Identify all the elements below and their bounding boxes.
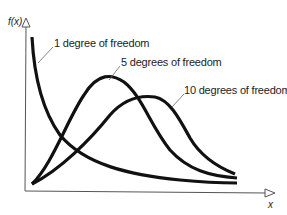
label-10-df: 10 degrees of freedom [184, 84, 287, 96]
y-axis [25, 26, 26, 191]
x-axis-arrow-icon [265, 189, 275, 197]
x-axis [25, 191, 266, 193]
chi-square-chart [0, 0, 287, 215]
y-axis-label: f(x) [8, 16, 22, 27]
label-1-df: 1 degree of freedom [54, 37, 149, 49]
label-5-df: 5 degrees of freedom [121, 56, 222, 68]
leader-line-10-df [172, 94, 184, 107]
y-axis-arrow-icon [22, 18, 30, 27]
x-axis-label: x [268, 199, 273, 210]
leader-line-1-df [38, 47, 53, 63]
